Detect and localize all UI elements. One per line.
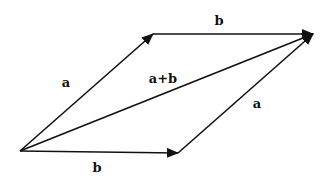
vector-a-left (20, 34, 153, 151)
vector-a-right (178, 34, 313, 153)
label-a-left: a (62, 75, 71, 90)
vector-b-bottom (20, 151, 178, 153)
label-a-right: a (253, 96, 262, 111)
vector-a-plus-b (20, 34, 313, 151)
vector-addition-diagram: a b a+b a b (0, 0, 330, 182)
label-a-plus-b: a+b (149, 71, 177, 86)
label-b-top: b (214, 13, 223, 28)
label-b-bottom: b (92, 160, 101, 175)
